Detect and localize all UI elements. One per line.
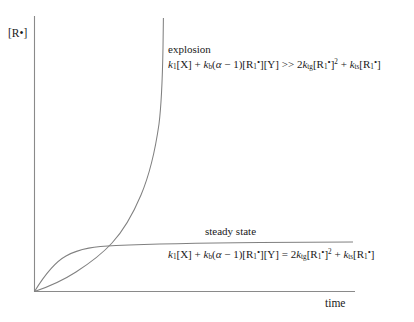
y-axis-label: [R•] xyxy=(8,28,27,40)
x-axis-label: time xyxy=(325,298,345,310)
explosion-curve xyxy=(35,18,164,292)
explosion-label: explosion xyxy=(168,44,211,55)
kinetics-figure: [R•] time explosion k1[X] + kb(α − 1)[R1… xyxy=(0,0,414,322)
steady-state-label: steady state xyxy=(205,226,256,237)
steady-state-equation: k1[X] + kb(α − 1)[R1•][Y] = 2ktg[R1•]2 +… xyxy=(168,248,375,262)
explosion-equation: k1[X] + kb(α − 1)[R1•][Y] >> 2ktg[R1•]2 … xyxy=(168,58,381,72)
